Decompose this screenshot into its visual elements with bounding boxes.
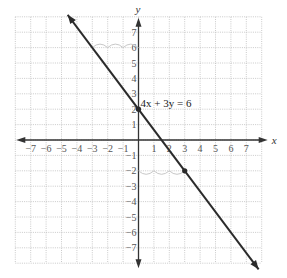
svg-text:−2: −2 bbox=[102, 143, 113, 154]
svg-text:5: 5 bbox=[132, 58, 137, 69]
svg-text:−3: −3 bbox=[126, 181, 137, 192]
svg-text:5: 5 bbox=[213, 143, 218, 154]
equation-label: 4x + 3y = 6 bbox=[141, 97, 192, 109]
svg-text:7: 7 bbox=[132, 27, 137, 38]
svg-text:−4: −4 bbox=[72, 143, 83, 154]
svg-text:−2: −2 bbox=[126, 165, 137, 176]
svg-text:1: 1 bbox=[151, 143, 156, 154]
svg-text:7: 7 bbox=[244, 143, 249, 154]
coordinate-plane: −7−6−5−4−3−2−11234567−7−6−5−4−3−2−112345… bbox=[0, 0, 287, 278]
svg-text:−6: −6 bbox=[41, 143, 52, 154]
svg-text:−5: −5 bbox=[126, 212, 137, 223]
svg-text:−7: −7 bbox=[126, 242, 137, 253]
x-axis-label: x bbox=[271, 134, 277, 146]
svg-text:−7: −7 bbox=[25, 143, 36, 154]
y-axis-label: y bbox=[135, 3, 141, 15]
svg-text:−6: −6 bbox=[126, 227, 137, 238]
svg-text:3: 3 bbox=[132, 88, 137, 99]
svg-text:−5: −5 bbox=[56, 143, 67, 154]
svg-text:6: 6 bbox=[228, 143, 233, 154]
svg-text:4: 4 bbox=[198, 143, 203, 154]
svg-text:−1: −1 bbox=[126, 150, 137, 161]
svg-text:1: 1 bbox=[132, 119, 137, 130]
svg-text:3: 3 bbox=[182, 143, 187, 154]
svg-text:−3: −3 bbox=[87, 143, 98, 154]
svg-text:4: 4 bbox=[132, 73, 137, 84]
svg-text:−4: −4 bbox=[126, 196, 137, 207]
